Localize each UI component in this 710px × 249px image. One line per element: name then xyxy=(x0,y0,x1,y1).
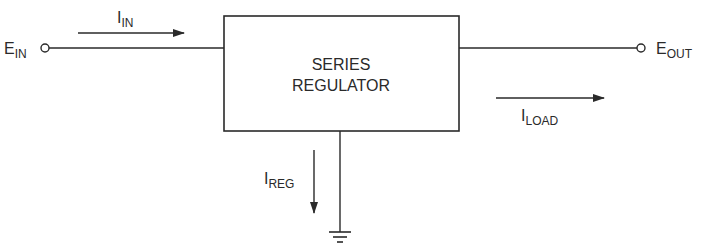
load-current-label: ILOAD xyxy=(521,107,558,128)
block-label-line2: REGULATOR xyxy=(292,77,390,94)
block-label-line1: SERIES xyxy=(312,56,371,73)
series-regulator-block xyxy=(224,16,459,131)
regulator-current-label: IREG xyxy=(264,170,294,191)
input-current-label: IIN xyxy=(117,9,133,30)
ground-icon xyxy=(329,232,351,242)
output-terminal-icon xyxy=(637,44,645,52)
series-regulator-diagram: SERIES REGULATOR EIN IIN EOUT ILOAD IREG xyxy=(0,0,710,249)
output-voltage-label: EOUT xyxy=(656,40,693,61)
input-terminal-icon xyxy=(41,44,49,52)
input-voltage-label: EIN xyxy=(4,40,27,61)
